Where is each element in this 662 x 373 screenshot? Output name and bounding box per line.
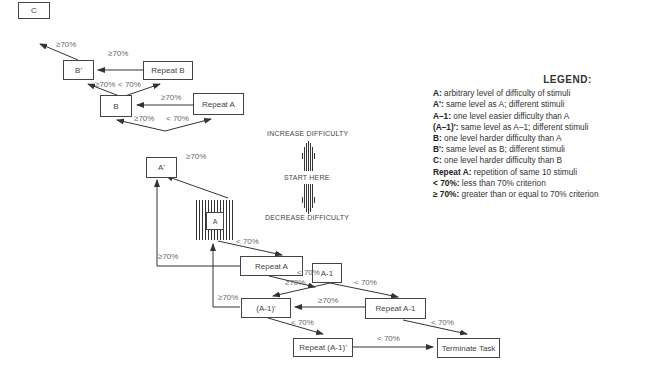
legend-desc: one level harder difficulty than B	[442, 155, 562, 165]
edge-label-ge70: ≥70%	[218, 293, 238, 302]
legend-term: Repeat A:	[433, 167, 471, 177]
node-label: A'	[158, 163, 165, 172]
node-terminate-task: Terminate Task	[437, 338, 500, 358]
legend-term: B':	[433, 144, 444, 154]
legend-term: A':	[433, 99, 444, 109]
edge-label-lt70: < 70%	[297, 268, 320, 277]
node-label: B'	[75, 66, 82, 75]
legend-term: C:	[433, 155, 442, 165]
node-a-minus-1-prime: (A-1)'	[241, 298, 291, 318]
node-label: A-1	[321, 269, 333, 278]
edge-label-ge70: ≥70%	[134, 114, 154, 123]
legend-term: < 70%:	[433, 178, 460, 188]
edge-label-lt70: < 70%	[377, 334, 400, 343]
legend-term: B:	[433, 133, 442, 143]
node-label: (A-1)'	[256, 304, 275, 313]
legend-item: A: arbitrary level of difficulty of stim…	[433, 88, 662, 99]
edge-label-lt70: < 70%	[354, 278, 377, 287]
legend-desc: greater than or equal to 70% criterion	[459, 189, 598, 199]
node-a-start: A	[196, 200, 235, 240]
legend-item: ≥ 70%: greater than or equal to 70% crit…	[433, 189, 662, 200]
legend-item: C: one level harder difficulty than B	[433, 155, 662, 166]
legend-term: (A–1)':	[433, 122, 458, 132]
increase-difficulty-label: INCREASE DIFFICULTY	[267, 130, 348, 137]
legend-term: A:	[433, 88, 442, 98]
legend-desc: same level as A–1; different stimuli	[458, 122, 588, 132]
node-b: B	[100, 95, 132, 117]
legend-desc: repetition of same 10 stimuli	[471, 167, 577, 177]
node-repeat-b: Repeat B	[143, 61, 193, 80]
legend-item: A': same level as A; different stimuli	[433, 99, 662, 110]
edge-label-ge70: ≥70%	[285, 278, 305, 287]
legend-desc: one level harder difficulty than A	[442, 133, 562, 143]
edge-label-ge70: ≥70%	[318, 296, 338, 305]
legend-item: B: one level harder difficulty than A	[433, 133, 662, 144]
edge-label-lt70: < 70%	[118, 80, 141, 89]
legend-desc: less than 70% criterion	[460, 178, 546, 188]
node-label: Repeat (A-1)'	[299, 343, 346, 352]
edge-label-lt70: < 70%	[166, 114, 189, 123]
legend-desc: one level easier difficulty than A	[451, 111, 569, 121]
node-a-inner: A	[206, 212, 224, 230]
edge-label-ge70: ≥70%	[56, 40, 76, 49]
node-label: Terminate Task	[442, 344, 496, 353]
node-label: B	[113, 102, 118, 111]
edge-label-lt70: < 70%	[236, 237, 259, 246]
edge-label-lt70: < 70%	[431, 318, 454, 327]
legend-desc: arbitrary level of difficulty of stimuli	[442, 88, 571, 98]
edge-label-ge70: ≥70%	[158, 252, 178, 261]
edge-label-ge70: ≥70%	[95, 80, 115, 89]
edge-label-ge70: ≥70%	[186, 152, 206, 161]
start-here-label: START HERE	[284, 174, 330, 181]
legend-desc: same level as B; different stimuli	[444, 144, 565, 154]
legend-term: A–1:	[433, 111, 451, 121]
legend-term: ≥ 70%:	[433, 189, 459, 199]
edge-label-lt70: < 70%	[291, 318, 314, 327]
node-label: Repeat A	[202, 100, 235, 109]
legend-item: < 70%: less than 70% criterion	[433, 178, 662, 189]
node-label: C	[31, 6, 37, 15]
legend-item: Repeat A: repetition of same 10 stimuli	[433, 167, 662, 178]
legend-item: (A–1)': same level as A–1; different sti…	[433, 122, 662, 133]
node-repeat-a-minus-1-prime: Repeat (A-1)'	[293, 338, 353, 357]
node-label: Repeat A	[255, 262, 288, 271]
legend-item: A–1: one level easier difficulty than A	[433, 111, 662, 122]
legend-item: B': same level as B; different stimuli	[433, 144, 662, 155]
legend-title: LEGEND:	[433, 74, 662, 85]
node-c: C	[18, 2, 50, 19]
node-repeat-a-top: Repeat A	[193, 93, 244, 115]
node-b-prime: B'	[63, 60, 94, 80]
node-label: Repeat B	[151, 66, 184, 75]
node-label: A	[213, 218, 218, 225]
legend: LEGEND: A: arbitrary level of difficulty…	[433, 74, 662, 200]
legend-desc: same level as A; different stimuli	[444, 99, 565, 109]
node-a-prime: A'	[146, 157, 177, 178]
decrease-difficulty-label: DECREASE DIFFICULTY	[265, 214, 349, 221]
node-label: Repeat A-1	[375, 304, 415, 313]
node-repeat-a: Repeat A	[240, 256, 303, 276]
node-repeat-a-minus-1: Repeat A-1	[365, 298, 426, 319]
edge-label-ge70: ≥70%	[161, 93, 181, 102]
edge-label-ge70: ≥70%	[108, 49, 128, 58]
